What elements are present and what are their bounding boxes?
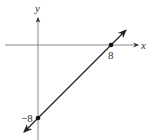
y-axis-label: y: [34, 2, 40, 14]
line-graph: x y 8−8: [0, 0, 147, 140]
point-label: −8: [21, 112, 33, 124]
data-point: [109, 43, 114, 48]
point-label: 8: [108, 49, 114, 61]
x-axis-label: x: [140, 39, 146, 51]
data-point: [36, 116, 41, 121]
